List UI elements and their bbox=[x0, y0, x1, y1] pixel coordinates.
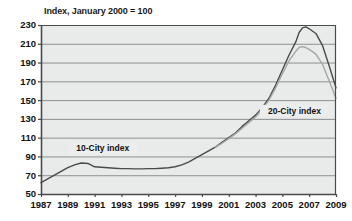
y-tick-label: 210 bbox=[20, 38, 36, 49]
x-tick-label: 1989 bbox=[57, 199, 78, 210]
series-annotation-label: 10-City index bbox=[76, 143, 129, 153]
y-tick-label: 230 bbox=[20, 19, 36, 30]
x-tick-label: 1999 bbox=[191, 199, 212, 210]
x-tick-label: 1997 bbox=[165, 199, 186, 210]
y-tick-label: 150 bbox=[20, 95, 36, 106]
x-tick-label: 1993 bbox=[111, 199, 132, 210]
x-tick-label: 2005 bbox=[272, 199, 294, 210]
x-tick-label: 2009 bbox=[325, 199, 346, 210]
line-chart-plot: 230210190170150130110907050 198719891991… bbox=[0, 0, 352, 221]
y-axis-tick-labels: 230210190170150130110907050 bbox=[20, 19, 36, 199]
y-tick-label: 70 bbox=[25, 170, 36, 181]
y-tick-label: 50 bbox=[25, 188, 36, 199]
x-tick-label: 1991 bbox=[84, 199, 106, 210]
y-tick-label: 130 bbox=[20, 113, 36, 124]
chart-figure: Index, January 2000 = 100 23021019017015… bbox=[0, 0, 352, 221]
y-tick-label: 90 bbox=[25, 151, 36, 162]
y-tick-label: 190 bbox=[20, 57, 36, 68]
x-tick-label: 2001 bbox=[218, 199, 240, 210]
x-axis-tick-labels: 1987198919911993199519971999200120032005… bbox=[30, 199, 346, 210]
y-tick-label: 170 bbox=[20, 76, 36, 87]
x-tick-label: 1995 bbox=[138, 199, 160, 210]
x-tick-label: 1987 bbox=[30, 199, 51, 210]
x-tick-label: 2007 bbox=[299, 199, 320, 210]
series-annotation-label: 20-City index bbox=[268, 106, 321, 116]
y-tick-label: 110 bbox=[21, 132, 36, 143]
x-tick-label: 2003 bbox=[245, 199, 266, 210]
